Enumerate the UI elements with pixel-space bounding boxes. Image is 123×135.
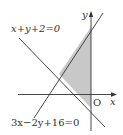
- y-axis-label: y: [82, 10, 88, 20]
- equation-label-line2: 3x−2y+16=0: [11, 118, 79, 128]
- coordinate-diagram: x+y+2=0 3x−2y+16=0 O x y: [0, 0, 123, 135]
- y-axis-arrow-icon: [89, 11, 93, 17]
- equation-label-line1: x+y+2=0: [11, 24, 60, 34]
- origin-label: O: [93, 98, 101, 108]
- line-x-plus-y-plus-2: [19, 38, 105, 127]
- x-axis-label: x: [110, 97, 116, 107]
- diagram-canvas: [0, 0, 123, 135]
